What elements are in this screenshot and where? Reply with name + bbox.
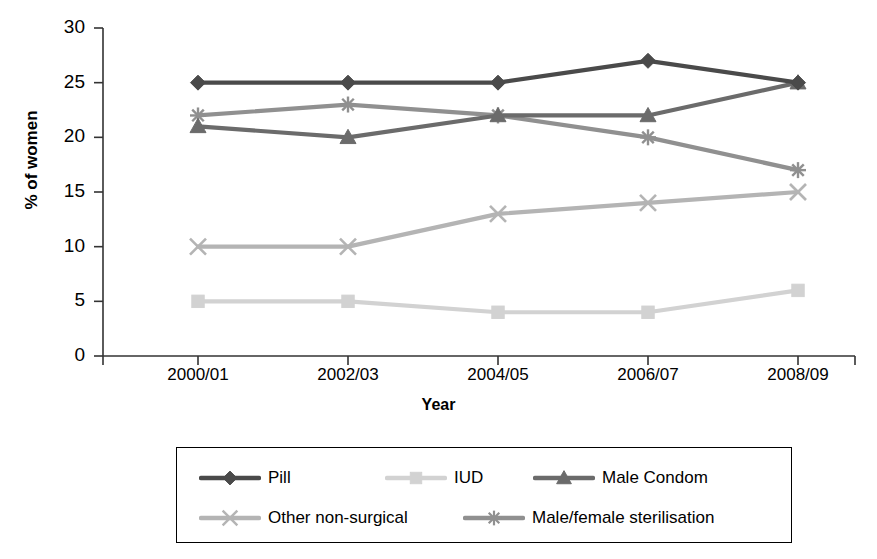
x-tick-label: 2008/09	[733, 366, 863, 384]
data-point-marker-square	[792, 284, 804, 296]
legend-entry[interactable]: Pill	[199, 467, 291, 489]
series-pill	[191, 53, 806, 90]
axis-lines	[103, 28, 855, 356]
legend-marker-cross-icon	[199, 507, 261, 529]
data-point-marker-diamond	[341, 75, 356, 90]
legend-marker-asterisk-icon	[463, 507, 525, 529]
chart-legend: PillIUDMale Condom Other non-surgicalMal…	[176, 447, 792, 543]
legend-label: IUD	[454, 469, 483, 487]
data-point-marker-asterisk	[487, 511, 502, 526]
legend-row-1: PillIUDMale Condom	[177, 458, 791, 498]
data-point-marker-diamond	[491, 75, 506, 90]
x-axis-title: Year	[0, 396, 877, 414]
legend-entry[interactable]: Male/female sterilisation	[463, 507, 714, 529]
legend-label: Male Condom	[602, 469, 708, 487]
legend-entry[interactable]: Other non-surgical	[199, 507, 408, 529]
legend-marker-square-icon	[385, 467, 447, 489]
legend-label: Other non-surgical	[268, 509, 408, 527]
data-point-marker-square	[492, 306, 504, 318]
legend-marker-triangle-icon	[533, 467, 595, 489]
x-tick-label: 2000/01	[133, 366, 263, 384]
data-point-marker-square	[642, 306, 654, 318]
data-point-marker-diamond	[223, 471, 237, 485]
legend-marker-diamond-icon	[199, 467, 261, 489]
legend-row-2: Other non-surgicalMale/female sterilisat…	[177, 498, 791, 538]
data-point-marker-square	[410, 472, 421, 483]
x-tick-label: 2002/03	[283, 366, 413, 384]
series-line	[198, 192, 798, 247]
legend-label: Male/female sterilisation	[532, 509, 714, 527]
data-point-marker-square	[342, 295, 354, 307]
x-axis-ticks	[103, 356, 855, 365]
series-iud	[192, 284, 804, 318]
data-point-marker-diamond	[641, 53, 656, 68]
legend-entry[interactable]: Male Condom	[533, 467, 708, 489]
data-point-marker-diamond	[191, 75, 206, 90]
x-tick-label: 2004/05	[433, 366, 563, 384]
line-chart: % of women 302520151050 2000/012002/0320…	[0, 0, 877, 559]
data-point-marker-asterisk	[640, 129, 656, 145]
data-point-marker-square	[192, 295, 204, 307]
legend-label: Pill	[268, 469, 291, 487]
x-tick-label: 2006/07	[583, 366, 713, 384]
legend-entry[interactable]: IUD	[385, 467, 483, 489]
data-point-marker-asterisk	[790, 162, 806, 178]
series-other-non-surgical	[190, 184, 806, 255]
data-point-marker-asterisk	[340, 97, 356, 113]
y-axis-ticks	[94, 28, 103, 356]
